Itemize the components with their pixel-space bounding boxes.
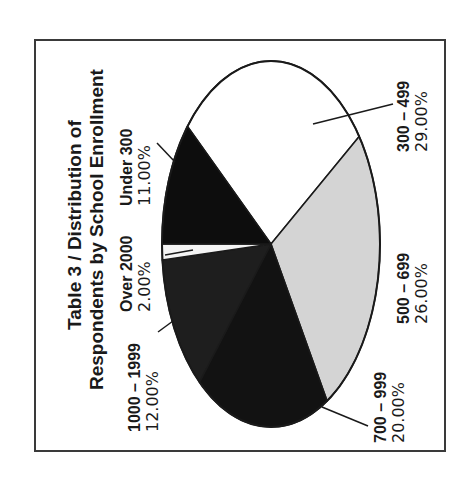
label-300-499: 300 – 499 29.00% [395, 81, 431, 152]
label-name: Over 2000 [118, 235, 136, 312]
label-name: 1000 – 1999 [126, 343, 144, 432]
label-1000-1999: 1000 – 1999 12.00% [126, 343, 162, 432]
label-percent: 12.00% [144, 343, 162, 432]
label-500-699: 500 – 699 26.00% [395, 253, 431, 324]
label-name: 500 – 699 [395, 253, 413, 324]
label-percent: 26.00% [413, 253, 431, 324]
label-percent: 20.00% [390, 372, 408, 443]
label-percent: 2.00% [136, 235, 154, 312]
chart-title-line-2: Respondents by School Enrollment [86, 69, 108, 390]
label-name: Under 300 [118, 129, 136, 206]
leader-700-999 [322, 407, 368, 426]
label-under-300: Under 300 11.00% [118, 129, 154, 206]
label-700-999: 700 – 999 20.00% [372, 372, 408, 443]
leader-1000-1999 [158, 321, 173, 332]
chart-title-line-1: Table 3 / Distribution of [64, 69, 86, 390]
label-name: 300 – 499 [395, 81, 413, 152]
label-percent: 29.00% [413, 81, 431, 152]
label-percent: 11.00% [136, 129, 154, 206]
label-name: 700 – 999 [372, 372, 390, 443]
label-over-2000: Over 2000 2.00% [118, 235, 154, 312]
chart-title: Table 3 / Distribution of Respondents by… [64, 69, 108, 390]
leader-under-300 [157, 143, 175, 162]
